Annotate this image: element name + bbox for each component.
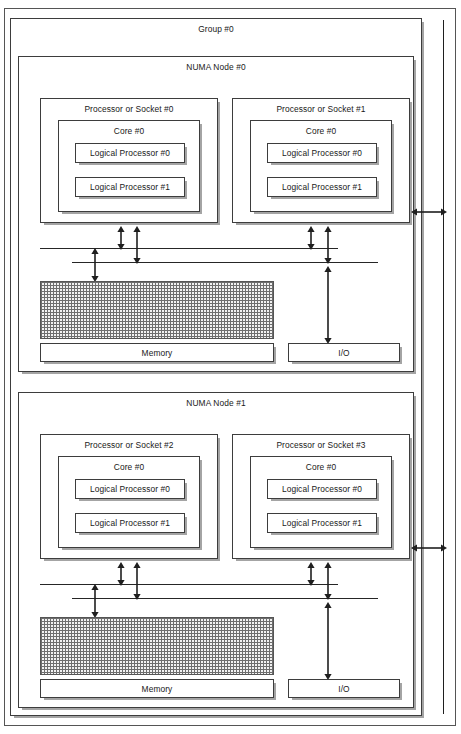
- socket-1-label: Processor or Socket #1: [233, 105, 409, 113]
- processor-topology-diagram: Group #0 NUMA Node #0 Processor or Socke…: [0, 0, 461, 734]
- node-1-memory-hatch: [40, 617, 274, 675]
- node-1-arrow-socket3-to-lower-bus: [322, 562, 334, 600]
- node-1-io-box: I/O: [288, 679, 400, 698]
- node-0-arrow-bus-to-io: [322, 266, 334, 344]
- group-label: Group #0: [11, 25, 421, 33]
- socket-3-core-0-label: Core #0: [251, 463, 391, 471]
- socket-1-core-0-lp-1-box: Logical Processor #1: [267, 177, 377, 197]
- node-1-arrow-socket2-to-lower-bus: [131, 562, 143, 600]
- node-0-arrow-socket0-to-lower-bus: [131, 226, 143, 264]
- node-0-bus-line-upper: [40, 248, 338, 249]
- node-1-interconnect-arrow: [411, 542, 447, 554]
- node-0-io-label: I/O: [289, 348, 399, 356]
- socket-2-core-0-lp-1-box: Logical Processor #1: [75, 513, 185, 533]
- numa-node-1-label: NUMA Node #1: [19, 399, 413, 407]
- socket-2-label: Processor or Socket #2: [41, 441, 217, 449]
- node-1-arrow-bus-to-io: [322, 602, 334, 680]
- socket-3-core-0-lp-0-label: Logical Processor #0: [268, 485, 376, 493]
- node-1-io-label: I/O: [289, 684, 399, 692]
- node-1-bus-line-upper: [40, 584, 338, 585]
- socket-3-core-0-box: Core #0: [250, 456, 392, 548]
- node-0-io-box: I/O: [288, 343, 400, 362]
- socket-0-core-0-lp-1-label: Logical Processor #1: [76, 183, 184, 191]
- node-0-memory-hatch: [40, 281, 274, 339]
- node-0-arrow-socket0-to-upper-bus: [115, 226, 127, 250]
- node-1-arrow-bus-to-memory: [89, 584, 101, 618]
- socket-1-core-0-lp-0-label: Logical Processor #0: [268, 149, 376, 157]
- socket-1-core-0-lp-1-label: Logical Processor #1: [268, 183, 376, 191]
- socket-2-core-0-lp-0-label: Logical Processor #0: [76, 485, 184, 493]
- socket-2-core-0-lp-1-label: Logical Processor #1: [76, 519, 184, 527]
- socket-3-core-0-lp-1-label: Logical Processor #1: [268, 519, 376, 527]
- node-1-arrow-socket2-to-upper-bus: [115, 562, 127, 586]
- socket-2-core-0-lp-0-box: Logical Processor #0: [75, 479, 185, 499]
- numa-node-0-label: NUMA Node #0: [19, 63, 413, 71]
- socket-3-core-0-lp-0-box: Logical Processor #0: [267, 479, 377, 499]
- socket-0-label: Processor or Socket #0: [41, 105, 217, 113]
- socket-3-core-0-lp-1-box: Logical Processor #1: [267, 513, 377, 533]
- socket-1-core-0-label: Core #0: [251, 127, 391, 135]
- socket-1-core-0-box: Core #0: [250, 120, 392, 212]
- socket-0-core-0-box: Core #0: [58, 120, 200, 212]
- node-0-interconnect-arrow: [411, 206, 447, 218]
- socket-2-core-0-label: Core #0: [59, 463, 199, 471]
- socket-0-core-0-lp-1-box: Logical Processor #1: [75, 177, 185, 197]
- node-1-memory-box: Memory: [40, 679, 274, 698]
- node-0-memory-label: Memory: [41, 348, 273, 356]
- node-1-memory-label: Memory: [41, 684, 273, 692]
- node-0-arrow-bus-to-memory: [89, 248, 101, 282]
- node-0-arrow-socket1-to-upper-bus: [305, 226, 317, 250]
- socket-1-core-0-lp-0-box: Logical Processor #0: [267, 143, 377, 163]
- node-interconnect-bus: [443, 20, 444, 714]
- node-1-arrow-socket3-to-upper-bus: [305, 562, 317, 586]
- socket-0-core-0-lp-0-box: Logical Processor #0: [75, 143, 185, 163]
- node-0-arrow-socket1-to-lower-bus: [322, 226, 334, 264]
- socket-3-label: Processor or Socket #3: [233, 441, 409, 449]
- node-0-memory-box: Memory: [40, 343, 274, 362]
- socket-0-core-0-lp-0-label: Logical Processor #0: [76, 149, 184, 157]
- socket-0-core-0-label: Core #0: [59, 127, 199, 135]
- socket-2-core-0-box: Core #0: [58, 456, 200, 548]
